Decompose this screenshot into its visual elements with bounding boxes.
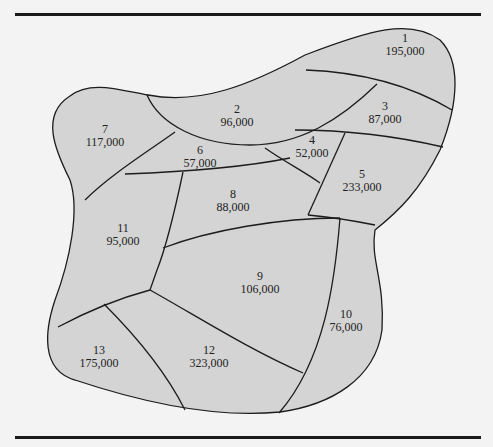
region-8-label: 8 88,000 (217, 188, 250, 214)
region-population: 175,000 (80, 357, 119, 370)
region-12-label: 12 323,000 (190, 344, 229, 370)
bottom-rule (15, 436, 481, 439)
region-population: 96,000 (221, 116, 254, 129)
region-11-label: 11 95,000 (107, 222, 140, 248)
region-population: 52,000 (296, 147, 329, 160)
region-1-label: 1 195,000 (386, 32, 425, 58)
region-population: 195,000 (386, 45, 425, 58)
region-population: 88,000 (217, 201, 250, 214)
region-10-label: 10 76,000 (330, 308, 363, 334)
region-map (0, 0, 493, 447)
region-population: 57,000 (184, 157, 217, 170)
region-population: 106,000 (241, 283, 280, 296)
region-2-label: 2 96,000 (221, 103, 254, 129)
region-population: 87,000 (369, 113, 402, 126)
region-4-label: 4 52,000 (296, 134, 329, 160)
region-6-label: 6 57,000 (184, 144, 217, 170)
region-5-label: 5 233,000 (343, 168, 382, 194)
region-population: 95,000 (107, 235, 140, 248)
region-9-label: 9 106,000 (241, 270, 280, 296)
region-population: 117,000 (86, 136, 125, 149)
region-population: 233,000 (343, 181, 382, 194)
region-13-label: 13 175,000 (80, 344, 119, 370)
region-3-label: 3 87,000 (369, 100, 402, 126)
region-population: 76,000 (330, 321, 363, 334)
region-7-label: 7 117,000 (86, 123, 125, 149)
region-population: 323,000 (190, 357, 229, 370)
